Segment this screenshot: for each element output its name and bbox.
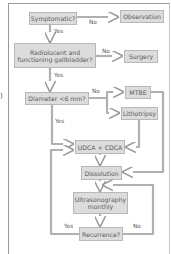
- node-dissolution: Dissolution: [81, 166, 122, 180]
- node-surgery-label: Surgery: [129, 53, 153, 60]
- node-symptomatic: Symptomatic?: [29, 12, 77, 25]
- node-observation-label: Observation: [123, 13, 161, 20]
- node-symptomatic-label: Symptomatic?: [31, 15, 75, 22]
- label-diameter-no: No: [92, 88, 100, 94]
- node-lithotripsy-label: Lithotripsy: [123, 110, 156, 117]
- node-udca-cdca-label: UDCA + CDCA: [78, 144, 123, 151]
- label-radiolucent-no: No: [102, 48, 110, 54]
- node-mtbe-label: MTBE: [129, 89, 146, 96]
- label-diameter-yes: Yes: [55, 118, 64, 124]
- node-ultrasonography-line2: monthly: [88, 203, 113, 210]
- label-symptomatic-no: No: [89, 19, 97, 25]
- node-surgery: Surgery: [124, 50, 158, 63]
- node-udca-cdca: UDCA + CDCA: [75, 140, 125, 154]
- node-lithotripsy: Lithotripsy: [121, 107, 158, 120]
- label-recurrence-yes: Yes: [64, 223, 73, 229]
- node-radiolucent-line2: functioning gallbladder?: [18, 56, 93, 63]
- node-mtbe: MTBE: [125, 86, 151, 99]
- node-radiolucent-line1: Radiolucent and: [30, 49, 80, 56]
- node-diameter: Diameter <6 mm?: [25, 92, 89, 105]
- node-ultrasonography: Ultrasonography monthly: [73, 192, 128, 214]
- node-observation: Observation: [120, 10, 164, 23]
- node-recurrence-label: Recurrence?: [82, 231, 120, 238]
- node-recurrence: Recurrence?: [79, 227, 123, 241]
- label-recurrence-no: No: [133, 223, 141, 229]
- label-radiolucent-yes: Yes: [54, 72, 63, 78]
- node-radiolucent: Radiolucent and functioning gallbladder?: [14, 43, 96, 68]
- label-symptomatic-yes: Yes: [54, 28, 63, 34]
- node-dissolution-label: Dissolution: [84, 170, 118, 177]
- node-diameter-label: Diameter <6 mm?: [28, 95, 85, 102]
- node-ultrasonography-line1: Ultrasonography: [75, 196, 127, 203]
